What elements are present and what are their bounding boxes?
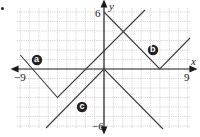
graph-a-label: a: [34, 55, 39, 64]
graph-b-label: b: [150, 45, 156, 54]
coordinate-plane: [0, 0, 200, 137]
y-max-tick-label: 6: [95, 8, 101, 19]
graph-c-label: c: [80, 102, 85, 111]
y-axis-label: y: [109, 1, 114, 12]
graph-a-line: [20, 10, 145, 98]
x-min-tick-label: −9: [14, 72, 26, 83]
y-min-tick-label: −6: [92, 121, 104, 132]
absolute-value-graph-figure: a b c y x 6 −6 −9 9: [0, 0, 200, 137]
x-axis-arrow-right-icon: [190, 67, 196, 72]
x-max-tick-label: 9: [184, 72, 190, 83]
axes: [12, 1, 196, 133]
bullet-marker: [1, 7, 4, 10]
y-axis-arrow-up-icon: [102, 1, 107, 7]
x-axis-label: x: [191, 56, 196, 67]
